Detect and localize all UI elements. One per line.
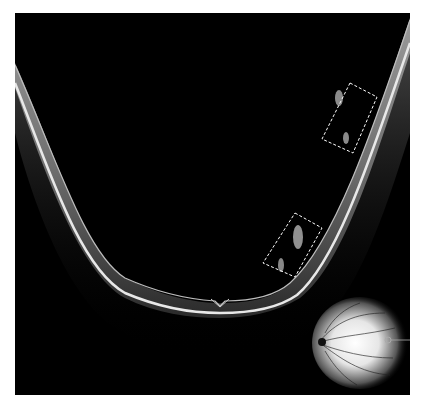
lesion-upper-2 (343, 132, 349, 144)
oct-scan-frame (15, 13, 410, 395)
oct-scan (15, 13, 410, 395)
lesion-lower-2 (278, 258, 284, 272)
fundus-inset (312, 297, 410, 389)
lesion-upper-1 (335, 90, 343, 106)
lesion-lower-1 (293, 225, 303, 249)
optic-disc (318, 338, 326, 346)
